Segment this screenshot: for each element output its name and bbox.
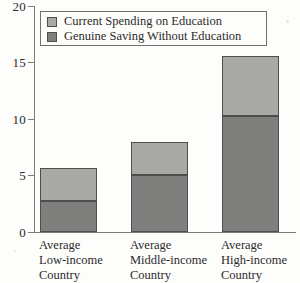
- stacked-bar-chart: 20 15 10 5 0 Average Low-income Country: [0, 0, 300, 283]
- y-tick-label-5: 5: [0, 169, 26, 182]
- bar-segment-education-spending: [131, 142, 188, 176]
- y-tick-label-0: 0: [0, 226, 26, 239]
- x-axis-line: [34, 232, 296, 233]
- x-label-line: Average: [130, 238, 207, 253]
- bar-segment-genuine-saving: [131, 175, 188, 232]
- y-tick-label-10: 10: [0, 113, 26, 126]
- bar-segment-genuine-saving: [222, 116, 279, 232]
- bar-middle-income: [131, 142, 188, 232]
- light-grey-swatch-icon: [47, 17, 57, 27]
- x-label-line: Average: [221, 238, 287, 253]
- y-tick-mark-15: [28, 62, 35, 63]
- plot-area: 20 15 10 5 0 Average Low-income Country: [0, 0, 300, 283]
- y-tick-label-15: 15: [0, 56, 26, 69]
- legend-entry-current-spending: Current Spending on Education: [47, 15, 222, 28]
- y-tick-mark-0: [28, 232, 35, 233]
- bar-segment-education-spending: [40, 168, 97, 202]
- bar-segment-genuine-saving: [40, 201, 97, 232]
- x-label-line: Country: [39, 268, 103, 283]
- x-label-line: High-income: [221, 253, 287, 268]
- scan-artifact: [286, 20, 289, 23]
- x-axis-label-low-income: Average Low-income Country: [39, 238, 103, 283]
- bar-low-income: [40, 168, 97, 232]
- y-tick-mark-10: [28, 119, 35, 120]
- bar-segment-education-spending: [222, 56, 279, 116]
- scan-artifact: [14, 250, 16, 252]
- y-tick-label-20: 20: [0, 0, 26, 13]
- x-label-line: Country: [130, 268, 207, 283]
- legend-label: Current Spending on Education: [64, 15, 222, 28]
- x-label-line: Middle-income: [130, 253, 207, 268]
- bar-high-income: [222, 56, 279, 232]
- y-tick-mark-20: [28, 6, 35, 7]
- legend-label: Genuine Saving Without Education: [64, 30, 241, 43]
- x-label-line: Low-income: [39, 253, 103, 268]
- y-tick-mark-5: [28, 175, 35, 176]
- legend-entry-genuine-saving: Genuine Saving Without Education: [47, 30, 241, 43]
- x-axis-label-high-income: Average High-income Country: [221, 238, 287, 283]
- x-label-line: Average: [39, 238, 103, 253]
- chart-legend: Current Spending on Education Genuine Sa…: [40, 11, 267, 46]
- x-axis-label-middle-income: Average Middle-income Country: [130, 238, 207, 283]
- dark-grey-swatch-icon: [47, 32, 57, 42]
- x-label-line: Country: [221, 268, 287, 283]
